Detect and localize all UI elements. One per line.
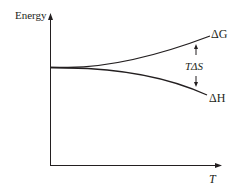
diagram-canvas: [0, 0, 243, 193]
delta-h-label: ΔH: [209, 91, 225, 106]
y-axis-label: Energy: [15, 9, 47, 21]
tds-arrow-up-icon: [194, 44, 198, 49]
y-axis-arrow-icon: [48, 13, 53, 20]
x-axis-label: T: [209, 172, 216, 187]
tds-arrow-down-icon: [194, 82, 198, 87]
tds-label: TΔS: [185, 60, 203, 72]
x-axis-arrow-icon: [215, 163, 222, 168]
energy-diagram: Energy T ΔG ΔH TΔS: [0, 0, 243, 193]
delta-h-curve: [51, 68, 207, 96]
delta-g-label: ΔG: [211, 27, 227, 42]
